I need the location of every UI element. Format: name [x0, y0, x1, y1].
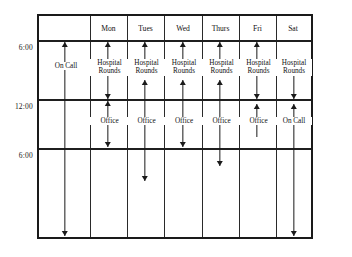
rounds-line-2: Rounds	[211, 67, 233, 75]
column-divider-6	[276, 16, 277, 237]
activity-label-wed-office: Office	[164, 117, 204, 125]
time-label-6am: 6:00	[4, 43, 33, 52]
day-header-sat: Sat	[276, 24, 310, 33]
rounds-line-2: Rounds	[99, 67, 121, 75]
activity-label-fri-rounds: Hospital Rounds	[239, 59, 278, 76]
column-divider-2	[127, 16, 128, 237]
activity-label-wed-rounds: Hospital Rounds	[164, 59, 204, 76]
activity-label-tues-rounds: Hospital Rounds	[127, 59, 166, 76]
time-label-6pm: 6:00	[4, 151, 33, 160]
activity-label-thurs-office: Office	[202, 117, 241, 125]
activity-label-sat-oncall: On Call	[276, 117, 312, 125]
rounds-line-1: Hospital	[134, 59, 158, 67]
column-divider-3	[164, 16, 165, 237]
day-header-mon: Mon	[90, 24, 127, 33]
schedule-figure: 6:00 12:00 6:00 Mon Tues Wed Thurs Fri S…	[0, 0, 352, 257]
row-divider-noon	[39, 99, 311, 101]
rounds-line-2: Rounds	[136, 67, 158, 75]
day-header-wed: Wed	[164, 24, 202, 33]
day-header-thurs: Thurs	[202, 24, 239, 33]
schedule-table: Mon Tues Wed Thurs Fri Sat On Call Hospi…	[37, 14, 313, 239]
activity-label-thurs-rounds: Hospital Rounds	[202, 59, 241, 76]
rounds-line-1: Hospital	[172, 59, 196, 67]
column-divider-1	[90, 16, 91, 237]
rounds-line-1: Hospital	[97, 59, 121, 67]
activity-label-sat-rounds: Hospital Rounds	[276, 59, 312, 76]
rounds-line-2: Rounds	[283, 67, 305, 75]
column-divider-4	[202, 16, 203, 237]
activity-label-fri-office: Office	[239, 117, 278, 125]
row-divider-header	[39, 40, 311, 42]
activity-label-tues-office: Office	[127, 117, 166, 125]
day-header-fri: Fri	[239, 24, 276, 33]
column-divider-5	[239, 16, 240, 237]
day-header-tues: Tues	[127, 24, 164, 33]
row-divider-evening	[39, 148, 311, 150]
rounds-line-1: Hospital	[209, 59, 233, 67]
time-label-12pm: 12:00	[4, 102, 33, 111]
activity-label-mon-rounds: Hospital Rounds	[90, 59, 129, 76]
activity-label-mon-office: Office	[90, 117, 129, 125]
rounds-line-1: Hospital	[282, 59, 306, 67]
rounds-line-2: Rounds	[248, 67, 270, 75]
rounds-line-2: Rounds	[173, 67, 195, 75]
activity-label-oncall-col1: On Call	[43, 62, 89, 70]
schedule-grid-lines: Mon Tues Wed Thurs Fri Sat On Call Hospi…	[39, 16, 311, 237]
rounds-line-1: Hospital	[246, 59, 270, 67]
